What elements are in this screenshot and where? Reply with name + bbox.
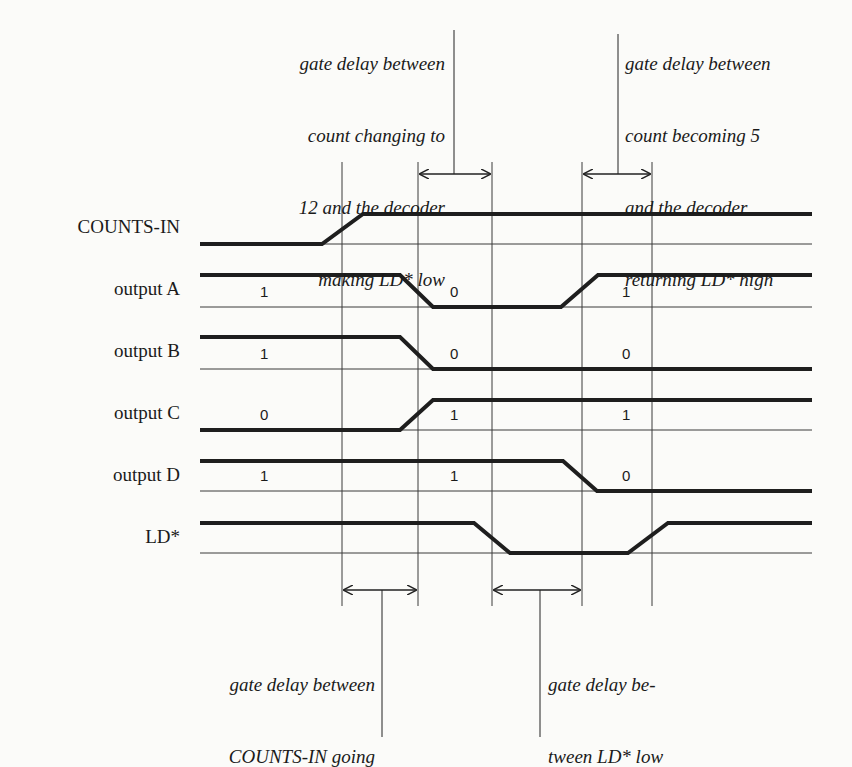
note-line: gate delay be-: [548, 673, 663, 697]
annotation-top-right: gate delay between count becoming 5 and …: [625, 4, 773, 316]
signal-label: output B: [0, 340, 180, 362]
note-line: returning LD* high: [625, 268, 773, 292]
logic-value: 1: [450, 406, 458, 423]
logic-value: 0: [450, 283, 458, 300]
signal-label: output C: [0, 402, 180, 424]
annotation-bottom-right: gate delay be- tween LD* low and the cou…: [548, 625, 663, 767]
logic-value: 1: [622, 406, 630, 423]
trace-output-b: [200, 337, 812, 369]
trace-ld-: [200, 523, 812, 553]
note-line: making LD* low: [230, 268, 445, 292]
note-line: gate delay between: [230, 52, 445, 76]
annotation-bottom-left: gate delay between COUNTS-IN going high …: [160, 625, 375, 767]
signal-label: output A: [0, 278, 180, 300]
signal-label: LD*: [0, 526, 180, 548]
logic-value: 1: [450, 467, 458, 484]
note-line: count changing to: [230, 124, 445, 148]
note-line: tween LD* low: [548, 745, 663, 767]
note-line: COUNTS-IN going: [160, 745, 375, 767]
logic-value: 1: [260, 467, 268, 484]
note-line: gate delay between: [625, 52, 773, 76]
trace-output-c: [200, 400, 812, 430]
note-line: 12 and the decoder: [230, 196, 445, 220]
note-line: gate delay between: [160, 673, 375, 697]
note-line: count becoming 5: [625, 124, 773, 148]
logic-value: 1: [260, 345, 268, 362]
logic-value: 0: [260, 406, 268, 423]
signal-label: output D: [0, 464, 180, 486]
signal-label: COUNTS-IN: [0, 216, 180, 238]
logic-value: 0: [450, 345, 458, 362]
trace-output-d: [200, 461, 812, 491]
logic-value: 0: [622, 345, 630, 362]
annotation-top-left: gate delay between count changing to 12 …: [230, 4, 445, 316]
logic-value: 0: [622, 467, 630, 484]
note-line: and the decoder: [625, 196, 773, 220]
